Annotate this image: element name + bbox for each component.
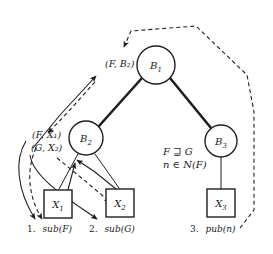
routing-entry-f-b2: (F, B₂) [105, 58, 135, 69]
client-node-x3[interactable]: X3 [207, 189, 235, 217]
tree-edge-b1-b3 [170, 78, 211, 128]
client-node-x2[interactable]: X2 [106, 189, 134, 217]
caption-pub-n-number: 3. [190, 224, 199, 234]
tree-edge-b2-x2 [95, 154, 119, 188]
tree-edge-b2-x1 [59, 154, 78, 189]
broker-node-b1[interactable]: B1 [137, 46, 175, 84]
caption-sub-f-number: 1. [27, 224, 36, 234]
broker-node-b3[interactable]: B3 [205, 125, 237, 157]
client-node-x1[interactable]: X1 [44, 190, 72, 218]
arrow-sub-g-x2-to-b2 [77, 160, 116, 189]
caption-sub-g-call: sub(G) [104, 224, 135, 234]
caption-sub-f-call: sub(F) [42, 224, 72, 234]
routing-entry-g-x2: (G, X₂) [31, 142, 63, 153]
condition-line-2: n ∈ N(F) [163, 159, 207, 170]
condition-block: F ⊒ G n ∈ N(F) [162, 146, 207, 170]
step-captions: 1. sub(F) 2. sub(G) 3. pub(n) [27, 224, 236, 234]
arrow-notify-down-left [30, 148, 42, 219]
condition-line-1: F ⊒ G [162, 146, 193, 157]
caption-sub-f: 1. sub(F) [27, 224, 72, 234]
figure-root: B1 B2 B3 X1 X2 X3 [0, 0, 273, 254]
caption-sub-g: 2. sub(G) [89, 224, 135, 234]
caption-pub-n: 3. pub(n) [190, 224, 236, 234]
caption-pub-n-call: pub(n) [205, 224, 236, 234]
routing-entry-f-x1: (F, X₁) [32, 129, 61, 140]
broker-nodes: B1 B2 B3 [69, 46, 237, 157]
client-nodes: X1 X2 X3 [44, 189, 235, 218]
broker-node-b2[interactable]: B2 [69, 121, 103, 155]
caption-sub-g-number: 2. [89, 224, 98, 234]
routing-tree-diagram: B1 B2 B3 X1 X2 X3 [0, 0, 273, 254]
tree-edge-b1-b2 [99, 78, 142, 126]
